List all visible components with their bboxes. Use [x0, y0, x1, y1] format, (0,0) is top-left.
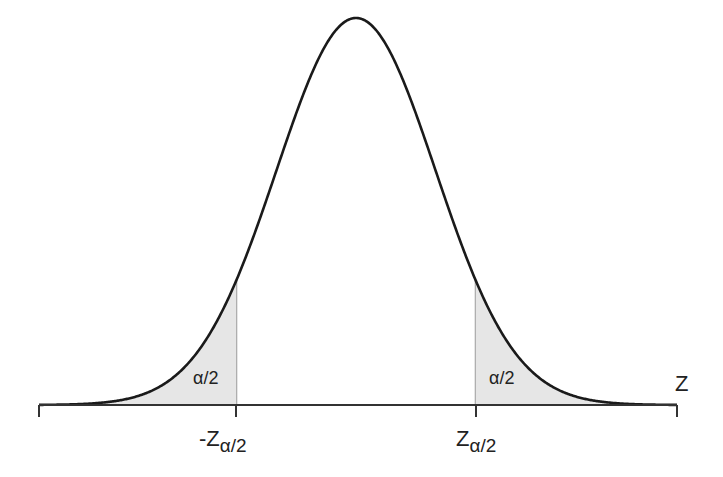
density-curve: [39, 18, 677, 405]
left-critical-main: -Z: [199, 426, 220, 451]
axis-variable-label: Z: [675, 371, 688, 396]
normal-distribution-chart: α/2 α/2 Z -Zα/2 Zα/2: [0, 0, 723, 477]
right-critical-subscript: α/2: [469, 435, 496, 456]
right-critical-main: Z: [456, 426, 469, 451]
left-tail-label: α/2: [193, 368, 218, 388]
left-critical-label: -Zα/2: [199, 426, 247, 456]
right-critical-label: Zα/2: [456, 426, 496, 456]
left-critical-subscript: α/2: [220, 435, 247, 456]
right-tail-label: α/2: [489, 368, 514, 388]
